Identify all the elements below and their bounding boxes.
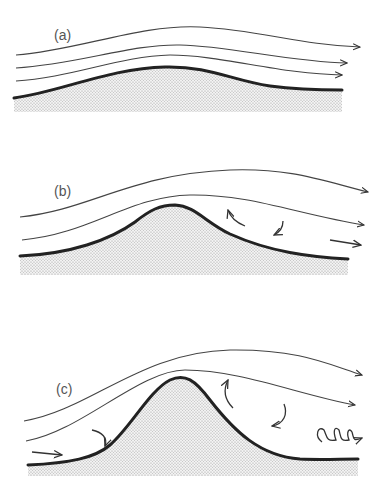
panel-label-a: (a) [54,27,71,43]
eddy-arrow-b-2 [274,221,283,235]
panel-label-c: (c) [56,381,72,397]
eddy-arrow-c-3 [225,380,233,408]
ground-b [20,205,348,275]
eddy-arrow-b-1 [228,210,245,226]
airflow-diagram: (a) (b) (c) [0,0,388,501]
panel-a: (a) [14,27,360,112]
panel-b: (b) [20,170,368,275]
panel-c: (c) [24,350,362,476]
panel-label-b: (b) [54,183,71,199]
streamline-a-2 [16,45,347,68]
eddy-arrow-c-2 [92,430,106,446]
ground-c [28,377,358,476]
flow-arrow-b-3 [330,240,361,245]
eddy-arrow-c-4 [272,404,286,426]
turbulent-eddy-c [318,428,362,442]
flow-arrow-c-1 [32,452,62,455]
